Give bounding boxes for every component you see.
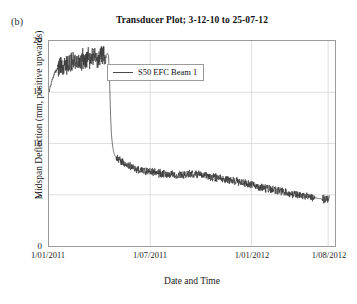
chart-legend: S50 EFC Beam 1 bbox=[107, 64, 204, 81]
y-tick-label-5: 5 bbox=[2, 190, 42, 200]
y-tick-label-15: 15 bbox=[2, 86, 42, 96]
chart-title: Transducer Plot; 3-12-10 to 25-07-12 bbox=[48, 15, 336, 25]
transducer-plot-figure: (b) Transducer Plot; 3-12-10 to 25-07-12… bbox=[0, 0, 357, 304]
x-tick-label-1: 1/01/2011 bbox=[3, 250, 93, 260]
panel-label: (b) bbox=[11, 16, 23, 27]
legend-swatch-icon bbox=[113, 72, 133, 73]
legend-label: S50 EFC Beam 1 bbox=[138, 67, 197, 77]
y-tick-label-10: 10 bbox=[2, 138, 42, 148]
y-tick-label-20: 20 bbox=[2, 35, 42, 45]
x-axis-label: Date and Time bbox=[48, 276, 336, 286]
x-tick-label-2: 1/07/2011 bbox=[105, 250, 195, 260]
x-tick-label-4: 1/08/2012 bbox=[284, 250, 357, 260]
